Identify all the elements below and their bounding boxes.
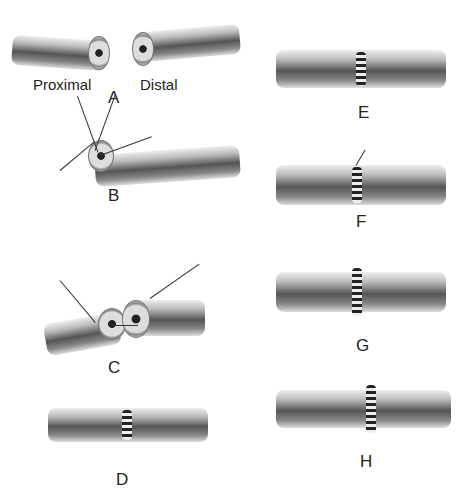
anastomosis-seam [352,167,362,203]
panel-label-c: C [108,358,120,378]
vessel-b [94,145,241,187]
panel-label-h: H [360,452,372,472]
vessel-h [276,390,451,428]
panel-label-b: B [108,186,119,206]
panel-label-e: E [358,103,369,123]
distal-vessel-c-end [122,300,150,338]
anastomosis-seam [366,385,376,433]
panel-label-f: F [356,212,366,232]
distal-vessel [139,24,241,63]
proximal-vessel-end [88,36,110,70]
anastomosis-seam [352,268,362,316]
suture-thread [356,150,366,166]
panel-label-d: D [116,470,128,489]
stay-suture [108,325,138,326]
suture-thread [150,264,200,299]
proximal-label: Proximal [33,76,91,93]
vessel-b-end [88,140,114,172]
anastomosis-seam [356,52,366,86]
panel-label-g: G [356,336,369,356]
suture-thread [77,96,98,153]
distal-vessel-end [132,32,154,66]
distal-label: Distal [140,76,178,93]
suture-thread [60,280,96,323]
anastomosis-seam [122,410,132,440]
